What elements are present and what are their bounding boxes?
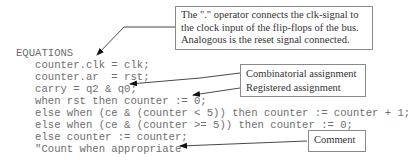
arrow-registered-to-when [193,88,240,95]
arrow-combinatorial-to-carry [200,73,240,78]
arrow-comment-to-comment-line [180,141,307,146]
